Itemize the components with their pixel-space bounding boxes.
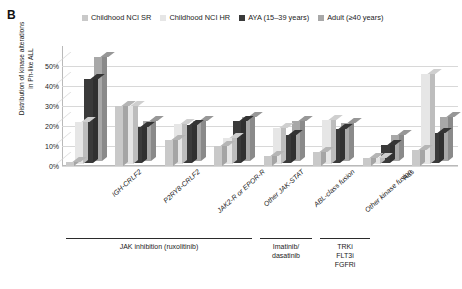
bar-side [448, 113, 453, 161]
legend-item: Childhood NCI SR [82, 13, 151, 22]
bracket-line [320, 238, 370, 239]
panel-letter: B [7, 8, 16, 22]
bar-top [150, 116, 165, 121]
bar [115, 106, 123, 166]
legend-swatch-icon [160, 15, 166, 21]
bar-side [241, 117, 246, 163]
bracket-label: JAK inhibition (ruxolitinib) [66, 242, 252, 251]
bar-side [300, 117, 305, 161]
bar-face [165, 140, 173, 166]
legend-label: Adult (≥40 years) [327, 13, 383, 22]
bar [363, 158, 371, 166]
gridline [62, 86, 458, 87]
y-axis-title-line-1: Distribution of kinase alterations [18, 22, 25, 115]
bar-side [430, 70, 435, 164]
bar-top [447, 112, 462, 117]
treatment-brackets: JAK inhibition (ruxolitinib)Imatinib/ da… [62, 238, 458, 286]
x-axis-label: IGH-CRLF2 [110, 168, 142, 198]
bracket-line [260, 238, 312, 239]
bar-top [428, 69, 443, 74]
bar-side [331, 116, 336, 164]
bar-face [313, 152, 321, 166]
bar [412, 150, 420, 166]
x-axis-label: ABL-class fusion [312, 168, 355, 208]
x-axis-labels: IGH-CRLF2P2RY8-CRLF2JAK2-R or EPOR-ROthe… [62, 168, 458, 226]
bar-face [66, 162, 74, 166]
legend-swatch-icon [82, 15, 88, 21]
x-axis-label: Other JAK-STAT [262, 168, 305, 208]
y-axis-title: Distribution of kinase alterations in Ph… [18, 0, 35, 144]
legend-label: Childhood NCI HR [169, 13, 230, 22]
bar-side [291, 131, 296, 163]
bar-side [232, 134, 237, 164]
bar-side [201, 117, 206, 161]
bar-face [115, 106, 123, 166]
gridline [62, 166, 458, 167]
bracket-line [66, 238, 252, 239]
bar-side [142, 123, 147, 163]
bar [264, 156, 272, 166]
bar-top [348, 118, 363, 123]
legend-item: Adult (≥40 years) [318, 13, 383, 22]
bar-face [214, 146, 222, 166]
legend-label: AYA (15–39 years) [248, 13, 309, 22]
bar [66, 162, 74, 166]
bar-side [133, 102, 138, 164]
x-axis-label: JAK2-R or EPOR-R [216, 168, 266, 214]
bracket-label: TRKi FLT3i FGFRi [320, 242, 370, 269]
bar-side [102, 53, 107, 161]
y-axis-title-line-2: in Ph-like ALL [26, 48, 33, 88]
x-axis-label: P2RY8-CRLF2 [162, 168, 201, 204]
bar-face [363, 158, 371, 166]
bar-side [192, 121, 197, 163]
bar-side [439, 129, 444, 163]
bar-side [182, 120, 187, 164]
chart-plot-area: 0%10%20%30%40%50% [62, 46, 458, 166]
legend-swatch-icon [239, 15, 245, 21]
bar-side [173, 136, 178, 166]
legend-item: Childhood NCI HR [160, 13, 230, 22]
legend-swatch-icon [318, 15, 324, 21]
gridline [62, 66, 458, 67]
legend-label: Childhood NCI SR [91, 13, 151, 22]
bar-top [100, 52, 115, 57]
bar-top [298, 116, 313, 121]
bracket-label: Imatinib/ dasatinib [260, 242, 312, 260]
bar [214, 146, 222, 166]
bar-side [250, 113, 255, 161]
bar-face [264, 156, 272, 166]
bar-top [397, 130, 412, 135]
bar-side [340, 125, 345, 163]
chart-legend: Childhood NCI SRChildhood NCI HRAYA (15–… [82, 13, 383, 22]
legend-item: AYA (15–39 years) [239, 13, 309, 22]
bar [165, 140, 173, 166]
bar-face [412, 150, 420, 166]
bar-side [281, 124, 286, 164]
bar-side [399, 131, 404, 161]
bar-top [329, 115, 344, 120]
bar-side [123, 102, 128, 166]
bar [313, 152, 321, 166]
